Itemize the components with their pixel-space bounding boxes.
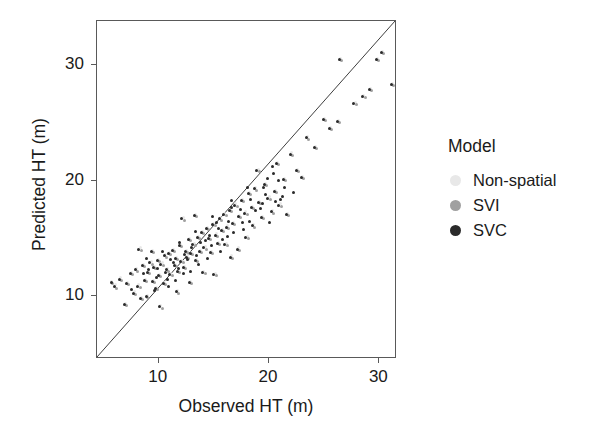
data-point — [226, 244, 229, 247]
data-point — [248, 220, 251, 223]
legend-key — [444, 175, 466, 186]
x-tick-label: 20 — [259, 367, 278, 387]
y-tick-mark — [91, 64, 96, 65]
legend-item-label: SVC — [473, 221, 507, 240]
data-point — [239, 208, 242, 211]
y-tick-label: 20 — [52, 170, 84, 190]
data-point — [355, 103, 358, 106]
y-tick-label: 10 — [52, 285, 84, 305]
data-point — [227, 220, 230, 223]
data-point — [300, 176, 303, 179]
data-point — [208, 234, 211, 237]
data-point — [268, 221, 271, 224]
data-point — [204, 239, 207, 242]
legend-item-label: Non-spatial — [473, 171, 556, 190]
legend-dot-icon — [450, 175, 461, 186]
data-point — [171, 249, 174, 252]
data-point — [189, 270, 192, 273]
data-point — [247, 237, 250, 240]
data-point — [380, 51, 383, 54]
data-point — [273, 190, 276, 193]
data-point — [261, 202, 264, 205]
data-point — [230, 199, 233, 202]
data-point — [132, 292, 135, 295]
data-point — [162, 264, 165, 267]
data-point — [214, 234, 217, 237]
data-point — [216, 242, 219, 245]
data-point — [221, 238, 224, 241]
data-point — [143, 279, 146, 282]
data-point — [242, 228, 245, 231]
data-point — [292, 191, 295, 194]
legend-items: Non-spatialSVISVC — [444, 168, 604, 243]
y-axis-label: Predicted HT (m) — [29, 16, 50, 354]
data-point — [258, 170, 261, 173]
data-point — [194, 259, 197, 262]
data-point — [166, 278, 169, 281]
data-point — [152, 266, 155, 269]
data-point — [182, 272, 185, 275]
data-point — [197, 263, 200, 266]
data-point — [272, 172, 275, 175]
data-point — [153, 289, 156, 292]
data-point — [259, 207, 262, 210]
legend-item-non-spatial: Non-spatial — [444, 168, 604, 193]
data-point — [283, 186, 286, 189]
data-point — [266, 177, 269, 180]
data-point — [164, 271, 167, 274]
legend-key — [444, 200, 466, 211]
data-point — [136, 285, 139, 288]
data-points-layer — [97, 21, 395, 357]
data-point — [219, 250, 222, 253]
data-point — [206, 257, 209, 260]
y-tick-mark — [91, 180, 96, 181]
data-point — [146, 271, 149, 274]
data-point — [199, 241, 202, 244]
data-point — [113, 285, 116, 288]
data-point — [236, 248, 239, 251]
data-point — [141, 264, 144, 267]
data-point — [129, 272, 132, 275]
data-point — [375, 58, 378, 61]
x-tick-mark — [378, 358, 379, 363]
legend-dot-icon — [450, 225, 461, 236]
legend-key — [444, 225, 466, 236]
data-point — [190, 246, 193, 249]
data-point — [174, 279, 177, 282]
x-tick-mark — [158, 358, 159, 363]
data-point — [277, 179, 280, 182]
data-point — [155, 276, 158, 279]
data-point — [313, 146, 316, 149]
data-point — [161, 250, 164, 253]
data-point — [240, 199, 243, 202]
data-point — [237, 215, 240, 218]
data-point — [186, 258, 189, 261]
data-point — [226, 235, 229, 238]
data-point — [151, 280, 154, 283]
data-point — [162, 282, 165, 285]
y-tick-mark — [91, 295, 96, 296]
scatter-plot-figure: 102030 102030 Observed HT (m) Predicted … — [0, 0, 608, 434]
data-point — [232, 231, 235, 234]
data-point — [225, 226, 228, 229]
data-point — [269, 198, 272, 201]
data-point — [254, 209, 257, 212]
data-point — [204, 272, 207, 275]
data-point — [368, 88, 371, 91]
data-point — [182, 266, 185, 269]
data-point — [156, 267, 159, 270]
data-point — [173, 264, 176, 267]
legend-item-svi: SVI — [444, 193, 604, 218]
data-point — [161, 307, 164, 310]
data-point — [118, 278, 121, 281]
legend-item-svc: SVC — [444, 218, 604, 243]
data-point — [193, 214, 196, 217]
data-point — [282, 178, 285, 181]
data-point — [167, 285, 170, 288]
x-tick-label: 30 — [369, 367, 388, 387]
data-point — [280, 205, 283, 208]
data-point — [142, 272, 145, 275]
data-point — [215, 274, 218, 277]
plot-panel — [96, 20, 396, 358]
data-point — [338, 58, 341, 61]
